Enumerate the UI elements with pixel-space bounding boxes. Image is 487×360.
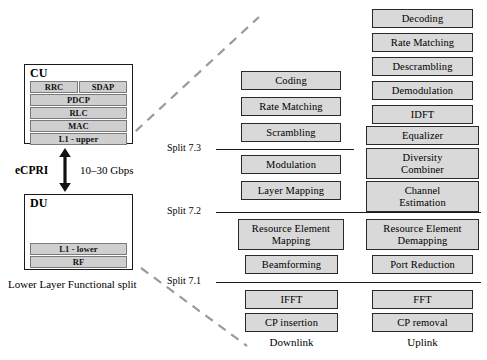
downlink-block-cp-insertion-label: CP insertion [265,317,318,329]
split-line-7-1 [216,282,481,283]
uplink-block-demodulation-label: Demodulation [392,85,453,97]
uplink-block-resource-element-demapping: Resource Element Demapping [366,219,479,250]
uplink-block-decoding-label: Decoding [402,13,444,25]
uplink-block-fft: FFT [372,290,473,309]
downlink-block-layer-mapping-label: Layer Mapping [258,185,324,197]
du-layer-rf-label: RF [73,257,85,267]
split-label-7-1: Split 7.1 [167,275,201,286]
uplink-block-diversity-combiner-label: Diversity Combiner [401,152,444,175]
cu-layer-rlc-label: RLC [69,108,87,118]
uplink-block-diversity-combiner: Diversity Combiner [366,148,479,179]
ecpri-rate-label: 10–30 Gbps [80,164,133,176]
cu-layer-mac-label: MAC [68,121,89,131]
uplink-block-idft-label: IDFT [411,109,435,121]
downlink-block-rate-matching-label: Rate Matching [259,101,322,113]
uplink-block-cp-removal: CP removal [372,313,473,332]
downlink-block-scrambling: Scrambling [241,123,341,142]
uplink-block-channel-estimation: Channel Estimation [366,181,479,212]
downlink-block-coding-label: Coding [275,75,307,87]
split-label-7-2: Split 7.2 [167,205,201,216]
downlink-column-caption: Downlink [245,336,338,348]
du-layer-l1-lower: L1 - lower [30,243,127,255]
dashed-connector-upper [124,17,259,142]
uplink-block-resource-element-demapping-label: Resource Element Demapping [383,223,461,246]
uplink-block-rate-matching-label: Rate Matching [391,37,454,49]
cu-layer-rlc: RLC [30,107,127,119]
cu-title: CU [30,66,47,81]
cu-layer-l1-upper: L1 - upper [30,133,127,145]
uplink-block-fft-label: FFT [413,294,431,306]
uplink-block-decoding: Decoding [372,9,473,28]
uplink-block-cp-removal-label: CP removal [397,317,447,329]
downlink-block-ifft-label: IFFT [281,294,303,306]
cu-layer-pdcp-label: PDCP [67,95,90,105]
uplink-block-equalizer-label: Equalizer [402,130,443,142]
downlink-block-ifft: IFFT [245,290,338,309]
downlink-block-resource-element-mapping-label: Resource Element Mapping [252,223,330,246]
uplink-block-idft: IDFT [372,105,473,124]
downlink-block-modulation-label: Modulation [266,159,316,171]
cu-layer-sdap-label: SDAP [92,82,115,92]
downlink-block-resource-element-mapping: Resource Element Mapping [238,219,344,250]
downlink-block-scrambling-label: Scrambling [266,127,315,139]
cu-layer-l1-upper-label: L1 - upper [59,134,99,144]
downlink-block-cp-insertion: CP insertion [245,313,338,332]
ecpri-protocol-label: eCPRI [15,164,48,176]
downlink-block-modulation: Modulation [241,155,341,174]
downlink-block-coding: Coding [241,71,341,90]
cu-layer-rrc: RRC [30,81,78,93]
uplink-block-descrambling: Descrambling [372,57,473,76]
downlink-block-beamforming-label: Beamforming [262,259,321,271]
uplink-column-caption: Uplink [372,336,473,348]
cu-layer-sdap: SDAP [79,81,127,93]
downlink-block-rate-matching: Rate Matching [241,97,341,116]
split-line-7-2 [216,212,481,213]
uplink-block-equalizer: Equalizer [366,126,479,145]
split-label-7-3: Split 7.3 [167,142,201,153]
du-layer-rf: RF [30,256,127,268]
du-layer-l1-lower-label: L1 - lower [59,244,97,254]
downlink-block-beamforming: Beamforming [245,255,338,274]
uplink-block-rate-matching: Rate Matching [372,33,473,52]
split-line-7-3 [216,149,354,150]
cu-layer-rrc-label: RRC [45,82,64,92]
cu-layer-pdcp: PDCP [30,94,127,106]
downlink-block-layer-mapping: Layer Mapping [241,181,341,200]
uplink-block-channel-estimation-label: Channel Estimation [399,185,446,208]
uplink-block-descrambling-label: Descrambling [392,61,452,73]
uplink-block-port-reduction: Port Reduction [372,255,473,274]
du-title: DU [30,196,47,211]
cu-layer-mac: MAC [30,120,127,132]
uplink-block-demodulation: Demodulation [372,81,473,100]
diagram-caption: Lower Layer Functional split [8,278,137,290]
functional-split-diagram: CU RRC SDAP PDCP RLC MAC L1 - upper eCPR… [0,0,487,360]
uplink-block-port-reduction-label: Port Reduction [390,259,455,271]
ecpri-double-arrow-icon [56,148,74,192]
